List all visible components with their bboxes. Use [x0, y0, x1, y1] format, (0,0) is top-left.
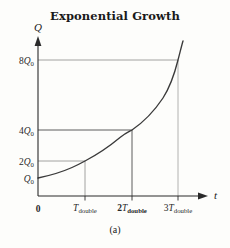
x-tick-label-origin: 0	[36, 204, 41, 214]
y-tick-label-8q0: 8Q0	[19, 56, 35, 67]
y-tick-label-4q0: 4Q0	[19, 126, 35, 137]
x-tick-label-3tdouble: 3Tdouble	[164, 203, 193, 214]
x-axis-ticks	[85, 196, 178, 201]
y-tick-label-q0: Q0	[24, 174, 35, 185]
x-tick-label-tdouble: Tdouble	[73, 203, 97, 214]
panel-caption: (a)	[0, 224, 230, 235]
figure-exponential-growth: Exponential Growth	[0, 0, 230, 248]
exponential-curve	[38, 41, 183, 178]
exponential-growth-plot: Q t 8Q0 4Q0 2Q0 Q0 0 Tdouble 2Tdouble 3T…	[0, 0, 230, 248]
x-axis-label: t	[214, 189, 218, 201]
guide-lines-horizontal	[38, 60, 178, 161]
x-axis	[38, 193, 208, 200]
guide-lines-vertical	[85, 60, 178, 196]
y-axis-arrowhead	[35, 36, 42, 46]
y-axis-label: Q	[34, 21, 42, 33]
x-tick-label-2tdouble: 2Tdouble	[117, 203, 147, 214]
y-tick-label-2q0: 2Q0	[19, 157, 35, 168]
x-axis-arrowhead	[198, 193, 208, 200]
